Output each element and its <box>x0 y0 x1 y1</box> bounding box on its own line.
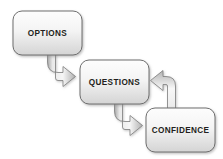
node-confidence-label: CONFIDENCE <box>152 126 210 135</box>
node-options[interactable]: OPTIONS <box>13 11 82 55</box>
node-questions-label: QUESTIONS <box>89 78 141 87</box>
node-questions[interactable]: QUESTIONS <box>80 60 149 104</box>
node-options-label: OPTIONS <box>28 29 67 38</box>
node-confidence[interactable]: CONFIDENCE <box>146 108 215 152</box>
flowchart-svg: OPTIONS QUESTIONS CONFIDENCE <box>0 0 223 159</box>
diagram-canvas: OPTIONS QUESTIONS CONFIDENCE <box>0 0 223 159</box>
